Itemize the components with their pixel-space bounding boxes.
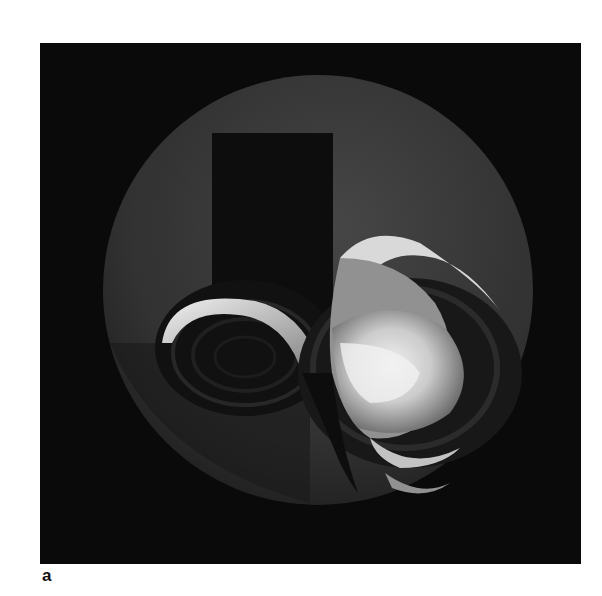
panel-label: a (42, 566, 51, 586)
figure-image-panel (40, 43, 581, 564)
rendered-surface-image (40, 43, 581, 564)
